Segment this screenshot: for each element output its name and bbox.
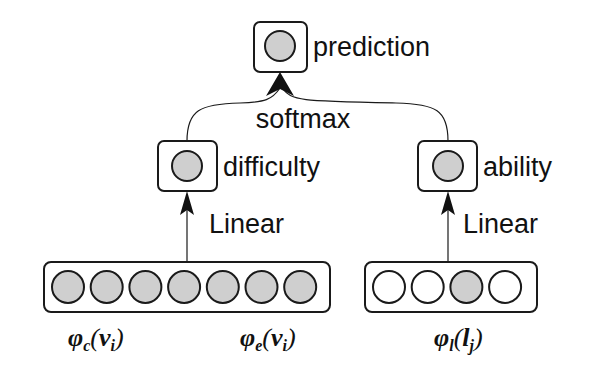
svg-text:φl(lj): φl(lj) <box>434 323 483 355</box>
input-vector-right <box>365 262 537 312</box>
softmax-label: softmax <box>256 104 351 134</box>
linear-arrow-right <box>441 191 455 262</box>
model-diagram: prediction softmax difficulty ability Li… <box>0 0 594 378</box>
filled-unit-circle <box>450 271 482 303</box>
empty-unit-circle <box>489 271 521 303</box>
svg-text:φe(vi): φe(vi) <box>240 323 296 354</box>
prediction-node <box>254 22 307 72</box>
filled-unit-circle <box>52 271 84 303</box>
label-phi-e-v-i: φe(vi) <box>240 323 296 354</box>
label-phi-c-v-i: φc(vi) <box>68 323 124 354</box>
linear-label-left: Linear <box>209 209 284 239</box>
filled-unit-circle <box>246 271 278 303</box>
svg-text:φc(vi): φc(vi) <box>68 323 124 354</box>
filled-unit-circle <box>207 271 239 303</box>
empty-unit-circle <box>412 271 444 303</box>
ability-node <box>418 141 477 191</box>
linear-arrow-left <box>180 191 194 262</box>
ability-label: ability <box>483 152 553 182</box>
difficulty-node <box>158 141 217 191</box>
arrowhead-icon <box>266 72 294 96</box>
difficulty-label: difficulty <box>223 152 321 182</box>
input-vector-left <box>44 262 330 312</box>
filled-unit-circle <box>129 271 161 303</box>
filled-unit-circle <box>91 271 123 303</box>
linear-label-right: Linear <box>463 209 538 239</box>
filled-unit-circle <box>284 271 316 303</box>
label-phi-l-l-j: φl(lj) <box>434 323 483 355</box>
empty-unit-circle <box>373 271 405 303</box>
filled-unit-circle <box>168 271 200 303</box>
prediction-label: prediction <box>313 32 430 62</box>
